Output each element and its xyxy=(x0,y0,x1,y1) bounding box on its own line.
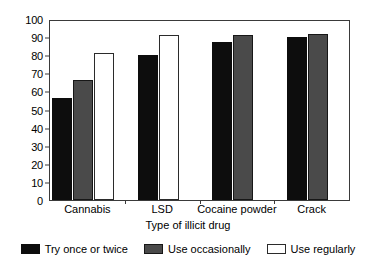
y-axis-tick-label: 30 xyxy=(31,141,43,152)
chart-legend: Try once or twiceUse occasionallyUse reg… xyxy=(0,243,376,255)
y-axis-tick-label: 0 xyxy=(37,196,43,207)
bar xyxy=(212,42,232,200)
bar xyxy=(233,35,253,200)
x-axis-category-label: Cannabis xyxy=(64,203,110,216)
bar xyxy=(52,98,72,200)
legend-item: Try once or twice xyxy=(21,243,128,255)
bar xyxy=(94,53,114,200)
x-axis-category-labels: CannabisLSDCocaine powderCrack xyxy=(50,203,349,219)
white-swatch xyxy=(267,244,286,254)
x-axis-category-label: Crack xyxy=(297,203,326,216)
bar xyxy=(159,35,179,200)
y-axis-tick-label: 60 xyxy=(31,87,43,98)
black-swatch xyxy=(21,244,40,254)
bar xyxy=(287,37,307,200)
y-axis-tick-labels: 0102030405060708090100 xyxy=(0,20,43,201)
legend-item-label: Use regularly xyxy=(291,243,356,255)
y-axis-tick-label: 90 xyxy=(31,33,43,44)
bar-chart-figure: 0102030405060708090100 CannabisLSDCocain… xyxy=(0,0,376,276)
bar xyxy=(138,55,158,200)
x-axis-category-label: LSD xyxy=(151,203,172,216)
legend-item-label: Try once or twice xyxy=(45,243,128,255)
y-axis-tick-label: 100 xyxy=(25,15,43,26)
y-axis-tick-label: 10 xyxy=(31,177,43,188)
x-axis-category-label: Cocaine powder xyxy=(197,203,277,216)
y-axis-tick-label: 70 xyxy=(31,69,43,80)
legend-item: Use regularly xyxy=(267,243,356,255)
y-axis-tick-label: 80 xyxy=(31,51,43,62)
y-axis-tick-label: 50 xyxy=(31,105,43,116)
legend-item-label: Use occasionally xyxy=(168,243,251,255)
bars-layer xyxy=(50,21,349,200)
bar xyxy=(308,34,328,200)
bar xyxy=(73,80,93,200)
gray-swatch xyxy=(144,244,163,254)
legend-item: Use occasionally xyxy=(144,243,251,255)
y-axis-tick-label: 40 xyxy=(31,123,43,134)
y-axis-tick-label: 20 xyxy=(31,159,43,170)
x-axis-title: Type of illicit drug xyxy=(0,219,376,232)
